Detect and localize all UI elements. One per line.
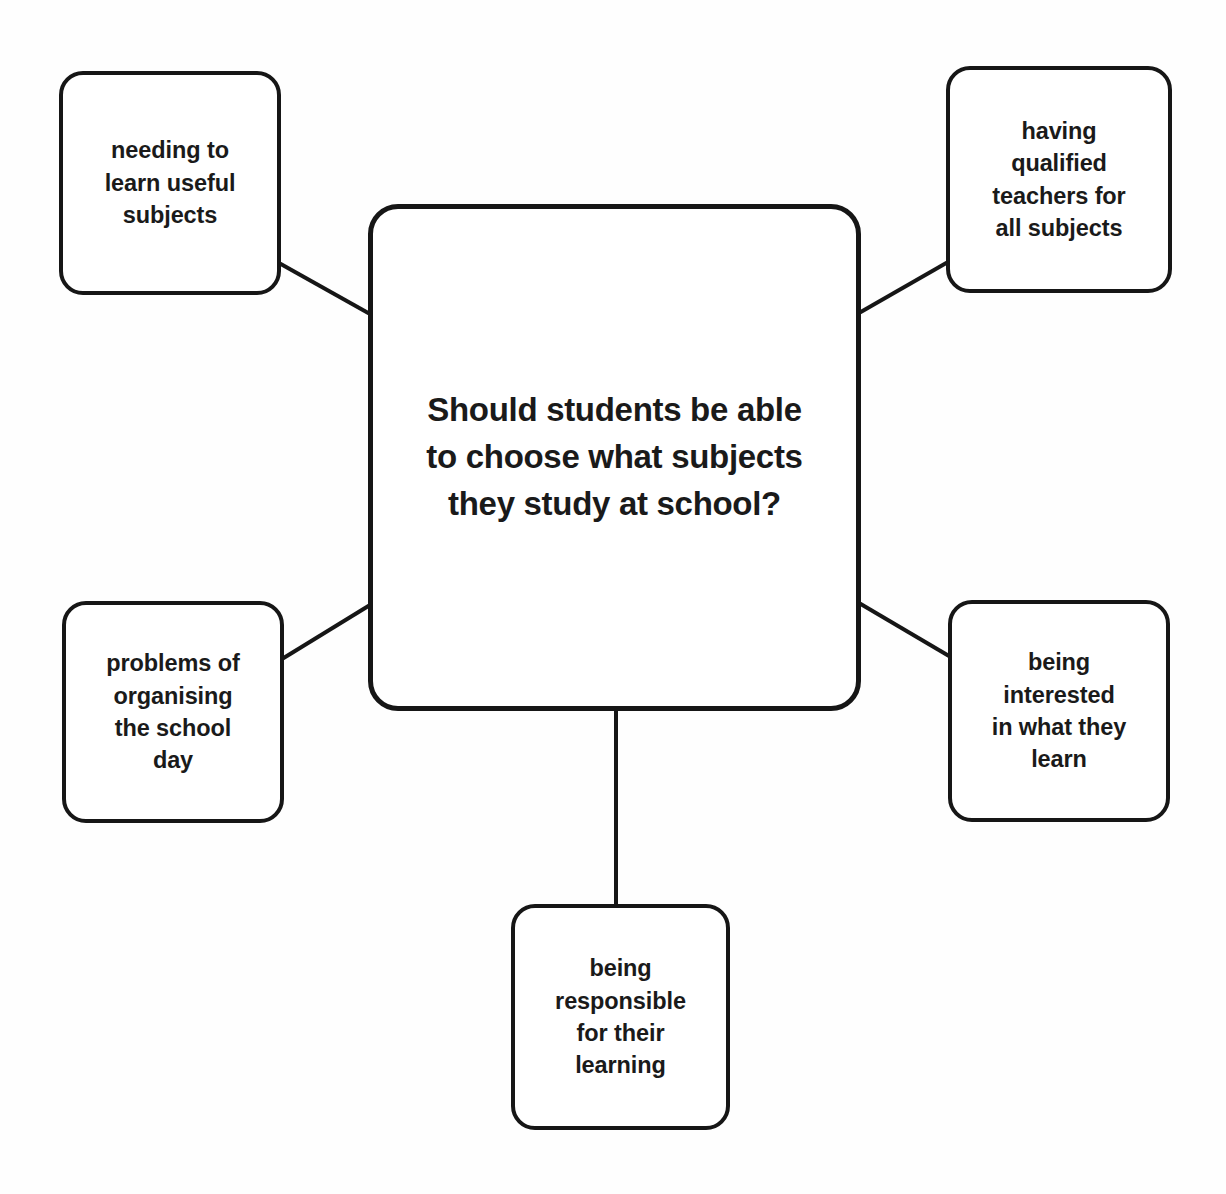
connector-organising-school-day xyxy=(282,605,370,659)
branch-node-being-responsible[interactable]: being responsible for their learning xyxy=(511,904,730,1130)
branch-label-qualified-teachers: having qualified teachers for all subjec… xyxy=(992,115,1125,245)
branch-label-being-interested: being interested in what they learn xyxy=(992,646,1127,776)
connector-being-interested xyxy=(859,603,949,656)
branch-label-organising-school-day: problems of organising the school day xyxy=(106,647,239,777)
branch-label-being-responsible: being responsible for their learning xyxy=(555,952,686,1082)
mind-map-canvas: Should students be able to choose what s… xyxy=(0,0,1226,1194)
connector-qualified-teachers xyxy=(859,262,948,313)
branch-node-qualified-teachers[interactable]: having qualified teachers for all subjec… xyxy=(946,66,1172,293)
central-question-label: Should students be able to choose what s… xyxy=(426,387,802,528)
branch-label-needing-useful-subjects: needing to learn useful subjects xyxy=(105,134,236,231)
connector-needing-useful-subjects xyxy=(279,263,370,314)
branch-node-needing-useful-subjects[interactable]: needing to learn useful subjects xyxy=(59,71,281,295)
branch-node-organising-school-day[interactable]: problems of organising the school day xyxy=(62,601,284,823)
branch-node-being-interested[interactable]: being interested in what they learn xyxy=(948,600,1170,822)
central-question-node[interactable]: Should students be able to choose what s… xyxy=(368,204,861,711)
